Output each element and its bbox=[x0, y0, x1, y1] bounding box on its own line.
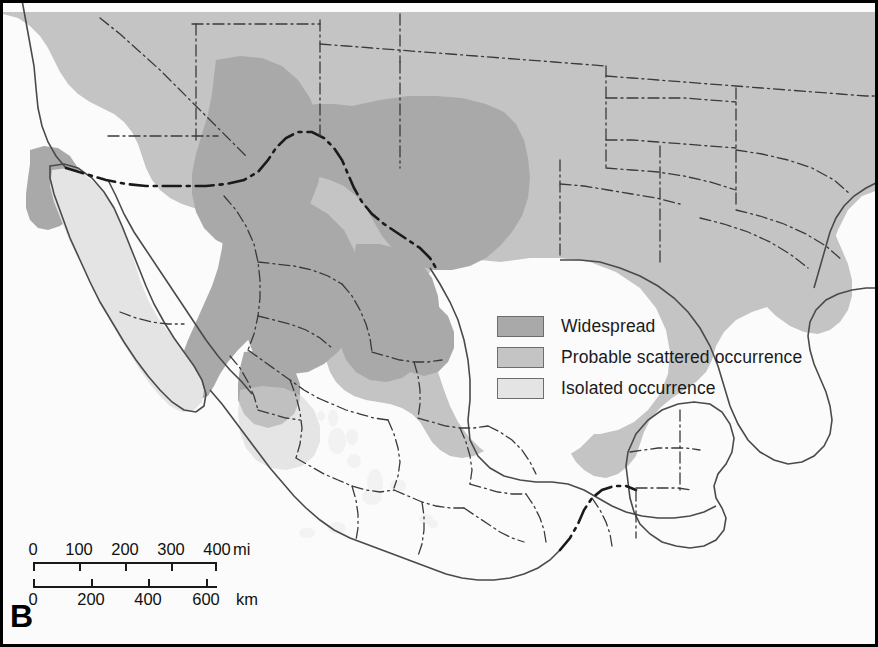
scale-mi-tickmark-0 bbox=[33, 562, 35, 571]
legend-swatch-isolated bbox=[497, 378, 544, 399]
legend-label-isolated: Isolated occurrence bbox=[561, 378, 716, 399]
scale-mi-tickmark-4 bbox=[215, 562, 217, 571]
legend-item-isolated: Isolated occurrence bbox=[497, 375, 802, 401]
scale-km-labels: 0 200 400 600 km bbox=[28, 590, 278, 612]
scale-km-tick-400: 400 bbox=[134, 590, 162, 609]
scale-km-axis bbox=[28, 576, 278, 588]
scale-mi-tick-400: 400 bbox=[203, 540, 231, 559]
legend-swatch-probable bbox=[497, 347, 544, 368]
panel-label-b: B bbox=[10, 600, 33, 632]
scale-mi-tick-100: 100 bbox=[65, 540, 93, 559]
legend-item-widespread: Widespread bbox=[497, 313, 802, 339]
scale-mi-tickmark-3 bbox=[171, 562, 173, 571]
scale-mi-tick-200: 200 bbox=[111, 540, 139, 559]
scale-km-tickmark-2 bbox=[148, 579, 150, 588]
scale-miles-axis bbox=[28, 562, 278, 573]
scale-unit-km: km bbox=[236, 590, 258, 609]
scale-mi-tickmark-2 bbox=[125, 562, 127, 571]
scale-km-line bbox=[33, 586, 217, 588]
legend-label-probable: Probable scattered occurrence bbox=[561, 347, 802, 368]
scale-mi-tick-0: 0 bbox=[28, 540, 37, 559]
scale-unit-mi: mi bbox=[233, 540, 250, 559]
scale-mi-tick-300: 300 bbox=[157, 540, 185, 559]
map-legend: Widespread Probable scattered occurrence… bbox=[497, 313, 802, 406]
map-figure: Widespread Probable scattered occurrence… bbox=[0, 0, 878, 647]
scale-km-tickmark-3 bbox=[206, 579, 208, 588]
scale-km-tick-200: 200 bbox=[77, 590, 105, 609]
scale-bar: 0 100 200 300 400 mi 0 200 bbox=[28, 540, 278, 612]
legend-swatch-widespread bbox=[497, 316, 544, 337]
scale-km-tick-600: 600 bbox=[192, 590, 220, 609]
scale-miles-labels: 0 100 200 300 400 mi bbox=[28, 540, 278, 562]
legend-item-probable: Probable scattered occurrence bbox=[497, 344, 802, 370]
scale-mi-tickmark-1 bbox=[79, 562, 81, 571]
scale-km-tickmark-0 bbox=[33, 579, 35, 588]
scale-km-tickmark-1 bbox=[91, 579, 93, 588]
legend-label-widespread: Widespread bbox=[561, 316, 655, 337]
